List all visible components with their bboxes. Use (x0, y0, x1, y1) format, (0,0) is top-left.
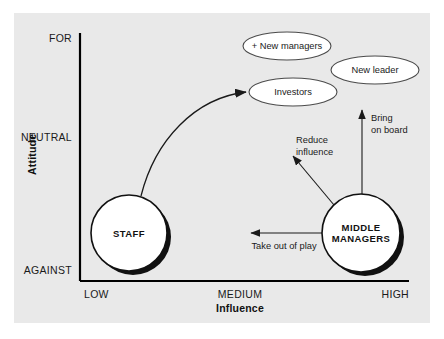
x-tick-low: LOW (84, 288, 109, 300)
edge-label-reduce-influence-line2: influence (296, 146, 333, 158)
node-label-middle-managers-line1: MIDDLE (321, 222, 401, 233)
edge-label-reduce-influence-line1: Reduce (296, 134, 328, 146)
diagram-stage: FOR NEUTRAL AGAINST Attitude LOW MEDIUM … (0, 0, 444, 339)
edge-label-bring-on-board-line1: Bring (371, 112, 393, 124)
node-label-new-managers: + New managers (243, 41, 331, 51)
curved-arrow-icon (141, 92, 246, 196)
node-label-investors: Investors (249, 87, 337, 97)
y-tick-against: AGAINST (0, 264, 72, 276)
edge-label-bring-on-board-line2: on board (371, 124, 408, 136)
y-tick-for: FOR (28, 32, 72, 44)
x-tick-medium: MEDIUM (195, 288, 285, 300)
x-tick-high: HIGH (329, 288, 409, 300)
y-axis-title: Attitude (26, 134, 38, 175)
edge-staff-to-investors (141, 92, 246, 196)
edge-label-take-out-of-play: Take out of play (244, 240, 324, 252)
diagonal-arrow-icon (293, 156, 334, 205)
node-label-staff: STAFF (99, 228, 159, 239)
x-axis-title: Influence (195, 302, 285, 314)
edge-reduce-influence (293, 156, 334, 205)
node-label-middle-managers-line2: MANAGERS (321, 233, 401, 244)
node-label-new-leader: New leader (331, 65, 419, 75)
